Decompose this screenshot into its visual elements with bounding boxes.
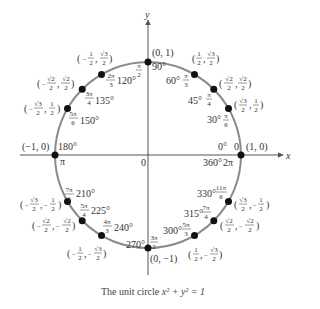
svg-text:√3: √3 xyxy=(239,97,247,105)
point-0 xyxy=(238,152,245,159)
svg-text:(: ( xyxy=(220,220,224,232)
caption-prefix: The unit circle xyxy=(101,286,162,297)
point-30 xyxy=(225,105,232,112)
svg-text:2: 2 xyxy=(51,205,55,213)
svg-text:−: − xyxy=(83,56,87,64)
svg-text:π: π xyxy=(184,72,188,80)
svg-text:−: − xyxy=(37,223,41,231)
svg-text:): ) xyxy=(219,249,222,261)
svg-text:√2: √2 xyxy=(246,217,254,225)
point-270 xyxy=(145,245,152,252)
svg-text:√2: √2 xyxy=(63,217,71,225)
svg-text:1: 1 xyxy=(254,97,258,105)
svg-text:1: 1 xyxy=(259,196,263,204)
svg-text:4π: 4π xyxy=(103,218,111,226)
svg-text:(: ( xyxy=(219,78,223,90)
point-330 xyxy=(225,198,232,205)
svg-text:4: 4 xyxy=(207,100,211,108)
svg-text:,: , xyxy=(249,99,252,110)
svg-text:−: − xyxy=(56,223,60,231)
svg-text:,: , xyxy=(235,220,238,231)
svg-text:120°: 120° xyxy=(117,75,136,86)
svg-text:2: 2 xyxy=(96,254,100,262)
svg-text:): ) xyxy=(266,199,269,211)
svg-text:−: − xyxy=(44,202,48,210)
svg-text:2: 2 xyxy=(36,109,40,117)
svg-text:360°: 360° xyxy=(203,157,222,168)
svg-text:7π: 7π xyxy=(65,186,73,194)
svg-text:): ) xyxy=(109,53,112,65)
svg-text:(−1, 0): (−1, 0) xyxy=(22,141,49,153)
svg-text:135°: 135° xyxy=(95,95,114,106)
svg-text:2π: 2π xyxy=(223,157,233,168)
svg-text:√3: √3 xyxy=(239,196,247,204)
svg-text:1: 1 xyxy=(51,196,55,204)
svg-text:240°: 240° xyxy=(114,222,133,233)
svg-text:300°: 300° xyxy=(163,225,182,236)
svg-text:2: 2 xyxy=(194,255,198,263)
svg-text:6: 6 xyxy=(219,193,223,201)
svg-text:−: − xyxy=(239,223,243,231)
svg-text:√3: √3 xyxy=(100,50,108,58)
label-60: 60° π 3 ( 1 2 , √3 2 ) xyxy=(166,50,219,89)
svg-text:2: 2 xyxy=(152,243,156,251)
svg-text:π: π xyxy=(207,91,211,99)
svg-text:2: 2 xyxy=(248,226,252,234)
svg-text:−: − xyxy=(29,106,33,114)
point-45 xyxy=(210,86,217,93)
caption: The unit circle x² + y² = 1 xyxy=(101,286,205,297)
point-180 xyxy=(52,152,59,159)
label-270: 270° 3π 2 (0, −1) xyxy=(126,234,177,265)
label-135: ( − √2 2 , √2 2 ) 3π 4 135° xyxy=(37,75,114,107)
svg-text:2: 2 xyxy=(44,226,48,234)
svg-text:√2: √2 xyxy=(225,75,233,83)
svg-text:2: 2 xyxy=(241,84,245,92)
point-300 xyxy=(191,232,198,239)
svg-text:3π: 3π xyxy=(150,234,158,242)
svg-text:,: , xyxy=(44,103,47,114)
svg-text:2: 2 xyxy=(32,205,36,213)
svg-text:7π: 7π xyxy=(202,204,210,212)
label-240: 4π 3 240° ( − 1 2 , − √3 2 ) xyxy=(67,218,133,262)
y-axis-label: y xyxy=(144,9,150,20)
svg-text:(: ( xyxy=(24,103,28,115)
svg-text:√3: √3 xyxy=(94,245,102,253)
svg-text:): ) xyxy=(248,78,251,90)
caption-equation: x² + y² = 1 xyxy=(161,286,205,297)
svg-text:π: π xyxy=(60,156,65,167)
svg-text:4: 4 xyxy=(82,211,86,219)
svg-text:2: 2 xyxy=(254,106,258,114)
svg-text:30°: 30° xyxy=(207,114,221,125)
svg-text:1: 1 xyxy=(50,100,54,108)
svg-text:2: 2 xyxy=(212,255,216,263)
svg-text:2: 2 xyxy=(64,84,68,92)
point-120 xyxy=(98,71,105,78)
svg-text:,: , xyxy=(84,248,87,259)
svg-text:(: ( xyxy=(32,220,36,232)
svg-text:): ) xyxy=(71,78,74,90)
svg-text:(: ( xyxy=(67,248,71,260)
svg-text:π: π xyxy=(224,112,228,120)
svg-text:√3: √3 xyxy=(210,246,218,254)
svg-text:√3: √3 xyxy=(30,196,38,204)
svg-text:1: 1 xyxy=(89,50,93,58)
x-axis-label: x xyxy=(285,150,291,161)
svg-text:5π: 5π xyxy=(80,202,88,210)
svg-text:2: 2 xyxy=(241,205,245,213)
svg-text:3: 3 xyxy=(105,227,109,235)
svg-text:,: , xyxy=(200,249,203,260)
svg-text:π: π xyxy=(137,62,141,70)
svg-text:180°: 180° xyxy=(58,141,77,152)
svg-text:4: 4 xyxy=(204,213,208,221)
svg-text:0°: 0° xyxy=(218,141,227,152)
svg-text:2: 2 xyxy=(89,59,93,67)
svg-text:2: 2 xyxy=(49,84,53,92)
svg-text:1: 1 xyxy=(194,246,198,254)
svg-text:): ) xyxy=(256,220,259,232)
svg-text:2: 2 xyxy=(102,59,106,67)
svg-text:,: , xyxy=(203,53,206,64)
svg-text:−: − xyxy=(25,202,29,210)
svg-text:2: 2 xyxy=(227,226,231,234)
svg-text:(: ( xyxy=(20,199,24,211)
svg-text:2: 2 xyxy=(65,226,69,234)
